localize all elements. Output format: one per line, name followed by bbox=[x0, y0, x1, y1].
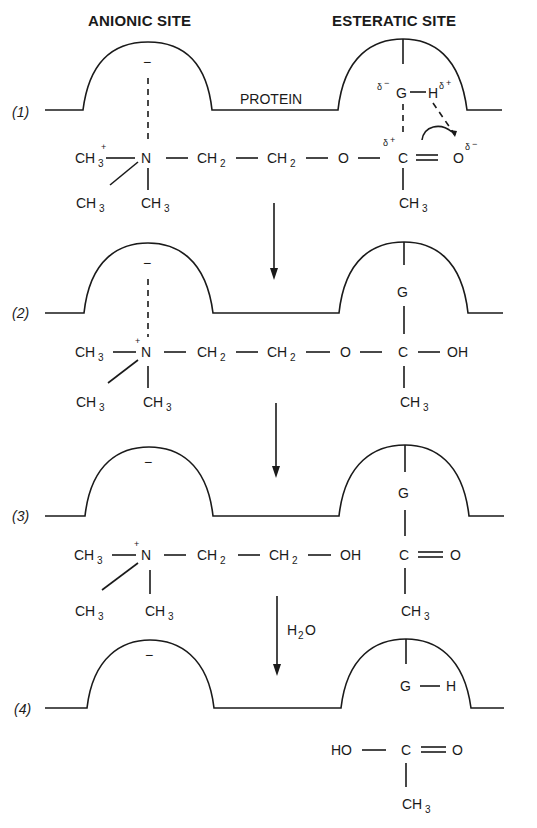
methyl: CH bbox=[75, 150, 95, 166]
oxygen: O bbox=[338, 150, 349, 166]
methylene: CH bbox=[267, 150, 287, 166]
subscript: 3 bbox=[164, 203, 170, 214]
carbon: C bbox=[401, 742, 411, 758]
subscript: 3 bbox=[422, 203, 428, 214]
g-atom: G bbox=[400, 678, 411, 694]
anionic-charge: − bbox=[143, 255, 151, 271]
nitrogen: N bbox=[141, 150, 151, 166]
subscript: 2 bbox=[290, 158, 296, 169]
methylene: CH bbox=[197, 344, 217, 360]
subscript: 3 bbox=[97, 555, 103, 566]
subscript: 3 bbox=[99, 203, 105, 214]
methyl: CH bbox=[74, 547, 94, 563]
stage-3: (3) − G CH 3 + N CH 2 CH 2 OH C O CH 3 C… bbox=[12, 445, 504, 622]
subscript: 3 bbox=[168, 611, 174, 622]
protein-surface bbox=[45, 639, 504, 708]
protein-label: PROTEIN bbox=[240, 91, 302, 107]
water-label: H bbox=[287, 622, 297, 638]
charge: + bbox=[134, 539, 139, 549]
stage-label: (1) bbox=[12, 104, 29, 120]
methyl: CH bbox=[401, 603, 421, 619]
stage-label: (4) bbox=[14, 701, 31, 717]
delta: δ bbox=[383, 138, 388, 148]
methyl: CH bbox=[400, 394, 420, 410]
delta: δ bbox=[439, 81, 444, 91]
stage-2: (2) − G CH 3 + N CH 2 CH 2 O C OH CH 3 C… bbox=[12, 242, 503, 413]
subscript: 3 bbox=[98, 158, 104, 169]
methyl: CH bbox=[402, 796, 422, 812]
oxygen: O bbox=[452, 742, 463, 758]
methyl: CH bbox=[75, 603, 95, 619]
subscript: 2 bbox=[298, 630, 304, 641]
stage-4: (4) − G H HO C O CH 3 bbox=[14, 639, 504, 815]
reaction-diagram: ANIONIC SITE ESTERATIC SITE (1) PROTEIN … bbox=[0, 0, 537, 828]
g-atom: G bbox=[397, 284, 408, 300]
anionic-charge: − bbox=[144, 454, 152, 470]
oxygen: O bbox=[450, 547, 461, 563]
subscript: 2 bbox=[220, 158, 226, 169]
methylene: CH bbox=[197, 150, 217, 166]
subscript: 2 bbox=[292, 555, 298, 566]
delta-sign: − bbox=[384, 78, 389, 88]
bond bbox=[108, 360, 138, 383]
oxygen: O bbox=[453, 150, 464, 166]
subscript: 2 bbox=[290, 352, 296, 363]
subscript: 3 bbox=[166, 402, 172, 413]
carbon: C bbox=[398, 344, 408, 360]
h-atom: H bbox=[428, 85, 438, 101]
carbon: C bbox=[398, 150, 408, 166]
delta: δ bbox=[377, 82, 382, 92]
esteratic-site-header: ESTERATIC SITE bbox=[332, 12, 456, 29]
hydroxyl: OH bbox=[447, 344, 468, 360]
methyl: CH bbox=[141, 195, 161, 211]
subscript: 2 bbox=[220, 555, 226, 566]
subscript: 2 bbox=[220, 352, 226, 363]
methyl: CH bbox=[143, 394, 163, 410]
methylene: CH bbox=[269, 547, 289, 563]
delta-sign: − bbox=[472, 139, 477, 149]
delta-sign: + bbox=[390, 135, 395, 145]
nitrogen: N bbox=[141, 344, 151, 360]
methylene: CH bbox=[197, 547, 217, 563]
delta-sign: + bbox=[446, 78, 451, 88]
methylene: CH bbox=[267, 344, 287, 360]
arrow-head bbox=[270, 268, 278, 280]
methyl: CH bbox=[399, 195, 419, 211]
h-atom: H bbox=[446, 678, 456, 694]
g-atom: G bbox=[396, 85, 407, 101]
charge: + bbox=[101, 142, 106, 152]
hydroxyl: HO bbox=[331, 742, 352, 758]
methyl: CH bbox=[76, 394, 96, 410]
subscript: 3 bbox=[98, 352, 104, 363]
methyl: CH bbox=[145, 603, 165, 619]
subscript: 3 bbox=[425, 804, 431, 815]
anionic-charge: − bbox=[145, 647, 153, 663]
arrow-head bbox=[273, 664, 281, 676]
protein-surface bbox=[45, 445, 504, 516]
stage-label: (3) bbox=[12, 508, 29, 524]
bond bbox=[102, 563, 138, 590]
hydroxyl: OH bbox=[340, 547, 361, 563]
water-label-o: O bbox=[305, 622, 316, 638]
charge: + bbox=[135, 336, 140, 346]
subscript: 3 bbox=[98, 611, 104, 622]
carbon: C bbox=[399, 547, 409, 563]
curved-arrow bbox=[422, 126, 452, 140]
subscript: 3 bbox=[424, 611, 430, 622]
g-atom: G bbox=[398, 485, 409, 501]
anionic-charge: − bbox=[143, 54, 151, 70]
dashed-bond bbox=[433, 103, 455, 135]
delta: δ bbox=[465, 142, 470, 152]
arrow-head bbox=[272, 466, 280, 478]
stage-1: (1) PROTEIN − δ − G H δ + CH 3 + N CH 2 … bbox=[12, 39, 502, 214]
methyl: CH bbox=[75, 344, 95, 360]
nitrogen: N bbox=[141, 547, 151, 563]
subscript: 3 bbox=[423, 402, 429, 413]
anionic-site-header: ANIONIC SITE bbox=[88, 12, 191, 29]
bond bbox=[110, 162, 138, 185]
methyl: CH bbox=[76, 195, 96, 211]
stage-label: (2) bbox=[12, 305, 29, 321]
oxygen: O bbox=[340, 344, 351, 360]
subscript: 3 bbox=[99, 402, 105, 413]
